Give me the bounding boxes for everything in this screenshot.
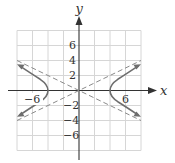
hyperbola-chart: x y −6 6 6 4 2 −2 −4 −6 [0,0,175,163]
y-tick-neg6: −6 [63,129,79,142]
y-tick-neg4: −4 [63,114,79,127]
y-tick-4: 4 [69,54,76,67]
x-axis-arrow-icon [148,87,157,94]
y-tick-6: 6 [69,39,76,52]
y-axis-label: y [75,1,84,16]
y-axis-arrow-icon [76,16,83,25]
y-tick-neg2: −2 [63,99,79,112]
x-tick-6: 6 [122,93,129,106]
y-tick-2: 2 [69,69,76,82]
x-axis-label: x [160,83,168,98]
x-tick-neg6: −6 [24,93,40,106]
